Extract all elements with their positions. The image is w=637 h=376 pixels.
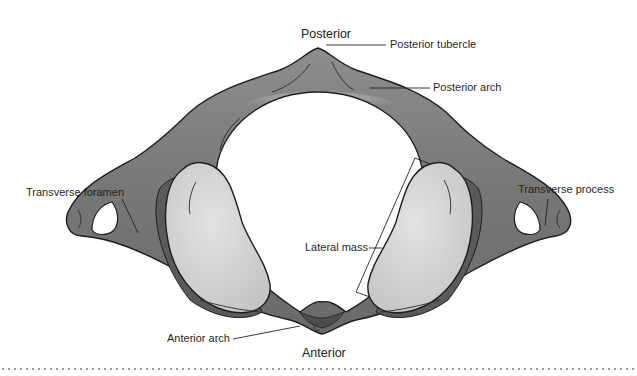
label-posterior-arch: Posterior arch bbox=[433, 81, 501, 93]
label-anterior-arch: Anterior arch bbox=[167, 332, 230, 344]
label-transverse-process: Transverse process bbox=[518, 183, 614, 195]
label-lateral-mass: Lateral mass bbox=[305, 241, 368, 253]
orientation-anterior: Anterior bbox=[302, 346, 346, 360]
dotted-divider bbox=[0, 368, 637, 370]
label-posterior-tubercle: Posterior tubercle bbox=[390, 38, 476, 50]
orientation-posterior: Posterior bbox=[301, 27, 351, 41]
atlas-diagram: Posterior Posterior tubercle Posterior a… bbox=[0, 0, 637, 376]
label-transverse-foramen: Transverse foramen bbox=[26, 186, 124, 198]
